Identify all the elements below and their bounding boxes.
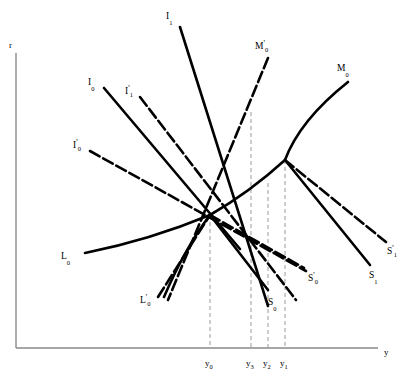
canvas-background — [0, 0, 412, 384]
x-axis-label: y — [384, 347, 389, 357]
economics-diagram: r y y0 y3 y2 y1 I1 M'0 M0 I0 I'1 I'0 S'1… — [0, 0, 412, 384]
y-axis-label: r — [9, 40, 12, 50]
